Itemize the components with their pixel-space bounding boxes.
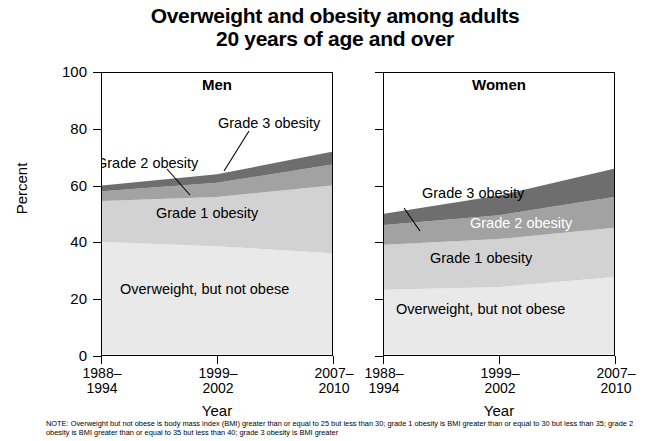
- panel-title-women: Women: [384, 76, 614, 93]
- panel-men: Men Grade 3 obesity Grade 2 obesity Grad…: [101, 72, 333, 356]
- y-tick-label-100: 100: [62, 63, 87, 80]
- x-tick-label-men-2-line1: 1999–: [199, 365, 238, 381]
- leader-line-grade2-men: [167, 169, 190, 195]
- x-tick-2-women: 1999– 2002: [499, 356, 500, 364]
- panel-title-men: Men: [102, 76, 332, 93]
- x-tick-3-women: 2007– 2010: [615, 356, 616, 364]
- x-tick-label-men-2: 1999– 2002: [183, 366, 253, 396]
- y-tick-label-0: 0: [79, 347, 87, 364]
- x-tick-label-men-3-line1: 2007–: [315, 365, 354, 381]
- x-tick-label-women-3-line1: 2007–: [597, 365, 636, 381]
- annotation-grade1-men: Grade 1 obesity: [156, 205, 258, 221]
- y-tick-label-20: 20: [70, 290, 87, 307]
- y-tick-20-women: [375, 299, 383, 300]
- x-tick-label-women-3: 2007– 2010: [581, 366, 651, 396]
- x-tick-label-women-2-line1: 1999–: [481, 365, 520, 381]
- panel-women: Women Grade 3 obesity Grade 2 obesity Gr…: [383, 72, 615, 356]
- chart-figure: Overweight and obesity among adults 20 y…: [0, 0, 670, 441]
- chart-title: Overweight and obesity among adults 20 y…: [0, 4, 670, 50]
- x-tick-label-men-1-line1: 1988–: [83, 365, 122, 381]
- annotation-grade2-men: Grade 2 obesity: [101, 155, 198, 171]
- x-axis-label-men: Year: [101, 402, 333, 419]
- x-tick-label-women-2: 1999– 2002: [465, 366, 535, 396]
- plot-area-men: Men Grade 3 obesity Grade 2 obesity Grad…: [101, 72, 333, 356]
- y-tick-60-men: 60: [93, 186, 101, 187]
- chart-footnote: NOTE: Overweight but not obese is body m…: [46, 419, 646, 437]
- y-tick-80-men: 80: [93, 129, 101, 130]
- chart-title-line-1: Overweight and obesity among adults: [151, 4, 520, 27]
- y-tick-0-men: 0: [93, 356, 101, 357]
- y-axis-label: Percent: [13, 124, 30, 254]
- annotation-grade3-men: Grade 3 obesity: [218, 115, 320, 131]
- x-tick-2-men: 1999– 2002: [217, 356, 218, 364]
- annotation-overweight-men: Overweight, but not obese: [120, 281, 289, 297]
- leader-line-grade3-women: [404, 208, 420, 231]
- y-tick-40-men: 40: [93, 242, 101, 243]
- x-tick-label-men-1: 1988– 1994: [67, 366, 137, 396]
- x-tick-label-women-1: 1988– 1994: [349, 366, 419, 396]
- annotation-overweight-women: Overweight, but not obese: [396, 301, 565, 317]
- y-tick-20-men: 20: [93, 299, 101, 300]
- y-tick-80-women: [375, 129, 383, 130]
- y-tick-0-women: [375, 356, 383, 357]
- y-tick-label-60: 60: [70, 177, 87, 194]
- x-tick-1-women: 1988– 1994: [383, 356, 384, 364]
- x-tick-1-men: 1988– 1994: [101, 356, 102, 364]
- y-tick-100-men: 100: [93, 72, 101, 73]
- y-tick-label-80: 80: [70, 120, 87, 137]
- y-tick-100-women: [375, 72, 383, 73]
- x-tick-label-women-1-line1: 1988–: [365, 365, 404, 381]
- y-tick-40-women: [375, 242, 383, 243]
- x-tick-label-men-2-line2: 2002: [202, 380, 233, 396]
- y-tick-60-women: [375, 186, 383, 187]
- annotation-grade1-women: Grade 1 obesity: [430, 250, 532, 266]
- annotation-grade2-women: Grade 2 obesity: [470, 215, 572, 231]
- x-tick-label-women-3-line2: 2010: [600, 380, 631, 396]
- x-tick-label-men-3-line2: 2010: [318, 380, 349, 396]
- y-tick-label-40: 40: [70, 233, 87, 250]
- x-tick-label-men-1-line2: 1994: [86, 380, 117, 396]
- annotation-grade3-women: Grade 3 obesity: [422, 185, 524, 201]
- x-axis-label-women: Year: [383, 402, 615, 419]
- x-tick-3-men: 2007– 2010: [333, 356, 334, 364]
- chart-title-line-2: 20 years of age and over: [0, 27, 670, 50]
- leader-line-grade3-men: [224, 131, 249, 171]
- x-tick-label-women-2-line2: 2002: [484, 380, 515, 396]
- plot-area-women: Women Grade 3 obesity Grade 2 obesity Gr…: [383, 72, 615, 356]
- x-tick-label-women-1-line2: 1994: [368, 380, 399, 396]
